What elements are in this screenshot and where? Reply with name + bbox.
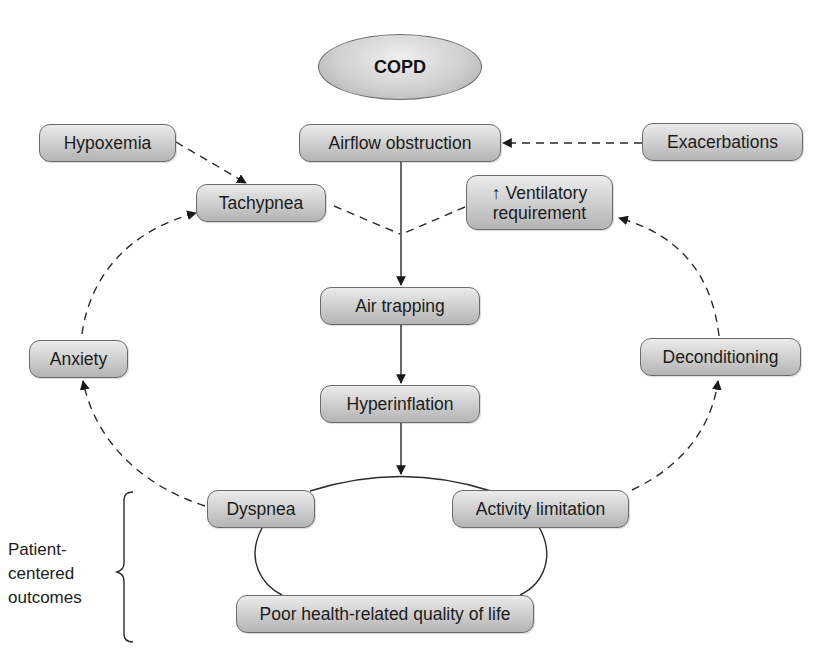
node-label: Dyspnea bbox=[226, 499, 295, 519]
diagram-connectors bbox=[0, 0, 827, 665]
node-hyperinflation: Hyperinflation bbox=[320, 385, 480, 423]
curve-activity-to-hrqol bbox=[520, 527, 547, 595]
node-poor-hrqol: Poor health-related quality of life bbox=[236, 595, 534, 633]
patient-centered-outcomes-label: Patient- centered outcomes bbox=[8, 538, 108, 610]
copd-root-node: COPD bbox=[318, 34, 482, 100]
patient-outcomes-bracket bbox=[117, 492, 133, 642]
node-label: Deconditioning bbox=[663, 347, 779, 367]
node-hypoxemia: Hypoxemia bbox=[39, 124, 176, 162]
edge-ventilatory-to-airtrapping bbox=[402, 207, 465, 234]
node-ventilatory-requirement: ↑ Ventilatory requirement bbox=[466, 175, 613, 230]
node-activity-limitation: Activity limitation bbox=[452, 490, 629, 528]
node-label-line1: ↑ Ventilatory bbox=[492, 183, 587, 203]
node-air-trapping: Air trapping bbox=[320, 287, 480, 325]
node-label: Hyperinflation bbox=[347, 394, 454, 414]
edge-deconditioning-to-ventilatory bbox=[619, 218, 719, 336]
node-anxiety: Anxiety bbox=[29, 340, 128, 378]
edge-dyspnea-to-anxiety bbox=[83, 381, 205, 506]
node-label: Hypoxemia bbox=[64, 133, 152, 153]
node-label: Anxiety bbox=[50, 349, 107, 369]
label-line3: outcomes bbox=[8, 586, 108, 610]
node-exacerbations: Exacerbations bbox=[642, 123, 803, 161]
copd-diagram: COPD Airflow obstruction Exacerbations H… bbox=[0, 0, 827, 665]
node-label: Airflow obstruction bbox=[329, 133, 472, 153]
node-label: Air trapping bbox=[355, 296, 445, 316]
node-label: Tachypnea bbox=[219, 193, 304, 213]
node-label-line2: requirement bbox=[493, 203, 586, 223]
label-line2: centered bbox=[8, 562, 108, 586]
curve-dyspnea-to-hrqol bbox=[255, 528, 282, 595]
copd-label: COPD bbox=[374, 57, 426, 78]
arc-dyspnea-activity bbox=[310, 477, 491, 492]
node-label: Activity limitation bbox=[476, 499, 605, 519]
edge-hypoxemia-to-tachypnea bbox=[176, 142, 246, 183]
label-line1: Patient- bbox=[8, 538, 108, 562]
node-tachypnea: Tachypnea bbox=[196, 184, 326, 222]
node-label: Poor health-related quality of life bbox=[260, 604, 511, 624]
node-dyspnea: Dyspnea bbox=[207, 490, 315, 528]
edge-tachypnea-to-airtrapping bbox=[334, 206, 400, 234]
node-airflow-obstruction: Airflow obstruction bbox=[299, 124, 501, 162]
edge-anxiety-to-tachypnea bbox=[82, 213, 196, 334]
edge-activity-to-deconditioning bbox=[632, 381, 718, 490]
node-label: Exacerbations bbox=[667, 132, 778, 152]
node-deconditioning: Deconditioning bbox=[640, 338, 801, 376]
